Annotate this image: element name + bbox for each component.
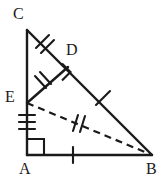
geometry-figure: C D E A B (0, 0, 164, 181)
vertex-label-b: B (146, 161, 157, 177)
figure-canvas (0, 0, 164, 181)
vertex-label-c: C (13, 6, 24, 22)
vertex-label-e: E (5, 89, 15, 105)
segment-eb-dashed (27, 103, 152, 155)
vertex-label-d: D (66, 42, 78, 58)
tick-marks-cd (36, 35, 54, 53)
tick-marks-eb (73, 115, 85, 132)
vertex-label-a: A (19, 161, 31, 177)
segment-ed (27, 67, 68, 103)
right-angle-marker-a (27, 139, 44, 155)
tick-marks-db (96, 91, 110, 105)
